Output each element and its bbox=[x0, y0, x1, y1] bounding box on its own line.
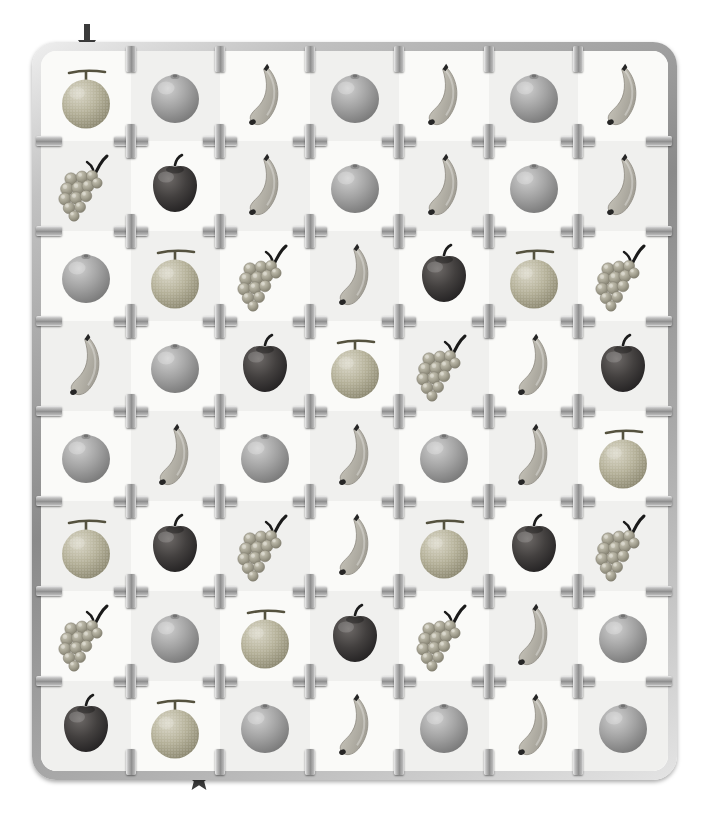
fruit-grapes[interactable] bbox=[49, 149, 123, 223]
fruit-grapes[interactable] bbox=[586, 239, 660, 313]
sprue-edge-nub-left bbox=[36, 406, 62, 416]
fruit-orange[interactable] bbox=[138, 329, 212, 403]
sprue-edge-nub-bottom bbox=[305, 749, 315, 775]
fruit-melon[interactable] bbox=[138, 239, 212, 313]
sprue-edge-nub-left bbox=[36, 496, 62, 506]
sprue-frame bbox=[32, 42, 677, 780]
fruit-apple[interactable] bbox=[497, 509, 571, 583]
fruit-orange[interactable] bbox=[497, 149, 571, 223]
puzzle-canvas bbox=[0, 0, 715, 821]
fruit-banana[interactable] bbox=[318, 239, 392, 313]
fruit-melon[interactable] bbox=[586, 419, 660, 493]
fruit-apple[interactable] bbox=[228, 329, 302, 403]
fruit-banana[interactable] bbox=[407, 59, 481, 133]
fruit-orange[interactable] bbox=[228, 419, 302, 493]
fruit-apple[interactable] bbox=[49, 689, 123, 763]
fruit-banana[interactable] bbox=[318, 509, 392, 583]
sprue-edge-nub-top bbox=[215, 46, 225, 72]
fruit-banana[interactable] bbox=[497, 689, 571, 763]
fruit-orange[interactable] bbox=[586, 689, 660, 763]
fruit-orange[interactable] bbox=[586, 599, 660, 673]
fruit-orange[interactable] bbox=[407, 419, 481, 493]
fruit-orange[interactable] bbox=[49, 419, 123, 493]
fruit-orange[interactable] bbox=[228, 689, 302, 763]
sprue-edge-nub-top bbox=[394, 46, 404, 72]
fruit-banana[interactable] bbox=[407, 149, 481, 223]
sprue-edge-nub-right bbox=[646, 226, 672, 236]
sprue-edge-nub-top bbox=[484, 46, 494, 72]
fruit-banana[interactable] bbox=[228, 149, 302, 223]
fruit-grapes[interactable] bbox=[407, 329, 481, 403]
sprue-edge-nub-right bbox=[646, 136, 672, 146]
fruit-banana[interactable] bbox=[138, 419, 212, 493]
sprue-edge-nub-right bbox=[646, 406, 672, 416]
fruit-orange[interactable] bbox=[138, 599, 212, 673]
fruit-banana[interactable] bbox=[49, 329, 123, 403]
sprue-edge-nub-top bbox=[305, 46, 315, 72]
fruit-orange[interactable] bbox=[318, 149, 392, 223]
fruit-banana[interactable] bbox=[228, 59, 302, 133]
sprue-edge-nub-top bbox=[126, 46, 136, 72]
fruit-grapes[interactable] bbox=[228, 239, 302, 313]
sprue-edge-nub-right bbox=[646, 316, 672, 326]
fruit-grapes[interactable] bbox=[586, 509, 660, 583]
fruit-melon[interactable] bbox=[228, 599, 302, 673]
fruit-orange[interactable] bbox=[318, 59, 392, 133]
fruit-banana[interactable] bbox=[318, 419, 392, 493]
sprue-edge-nub-bottom bbox=[126, 749, 136, 775]
fruit-orange[interactable] bbox=[497, 59, 571, 133]
fruit-apple[interactable] bbox=[138, 509, 212, 583]
fruit-melon[interactable] bbox=[318, 329, 392, 403]
sprue-edge-nub-right bbox=[646, 676, 672, 686]
sprue-edge-nub-bottom bbox=[573, 749, 583, 775]
fruit-melon[interactable] bbox=[407, 509, 481, 583]
fruit-apple[interactable] bbox=[586, 329, 660, 403]
fruit-banana[interactable] bbox=[497, 599, 571, 673]
fruit-grapes[interactable] bbox=[407, 599, 481, 673]
sprue-edge-nub-top bbox=[573, 46, 583, 72]
sprue-edge-nub-left bbox=[36, 136, 62, 146]
fruit-melon[interactable] bbox=[49, 509, 123, 583]
fruit-banana[interactable] bbox=[497, 329, 571, 403]
sprue-edge-nub-right bbox=[646, 586, 672, 596]
fruit-banana[interactable] bbox=[318, 689, 392, 763]
sprue-edge-nub-left bbox=[36, 676, 62, 686]
sprue-edge-nub-left bbox=[36, 586, 62, 596]
fruit-banana[interactable] bbox=[586, 59, 660, 133]
fruit-banana[interactable] bbox=[586, 149, 660, 223]
sprue-edge-nub-bottom bbox=[394, 749, 404, 775]
fruit-orange[interactable] bbox=[49, 239, 123, 313]
fruit-apple[interactable] bbox=[407, 239, 481, 313]
sprue-edge-nub-left bbox=[36, 226, 62, 236]
fruit-banana[interactable] bbox=[497, 419, 571, 493]
fruit-grapes[interactable] bbox=[49, 599, 123, 673]
fruit-apple[interactable] bbox=[138, 149, 212, 223]
fruit-grapes[interactable] bbox=[228, 509, 302, 583]
fruit-apple[interactable] bbox=[318, 599, 392, 673]
fruit-melon[interactable] bbox=[497, 239, 571, 313]
sprue-edge-nub-left bbox=[36, 316, 62, 326]
sprue-edge-nub-bottom bbox=[484, 749, 494, 775]
fruit-melon[interactable] bbox=[138, 689, 212, 763]
sprue-edge-nub-bottom bbox=[215, 749, 225, 775]
sprue-edge-nub-right bbox=[646, 496, 672, 506]
fruit-orange[interactable] bbox=[138, 59, 212, 133]
fruit-melon[interactable] bbox=[49, 59, 123, 133]
fruit-orange[interactable] bbox=[407, 689, 481, 763]
